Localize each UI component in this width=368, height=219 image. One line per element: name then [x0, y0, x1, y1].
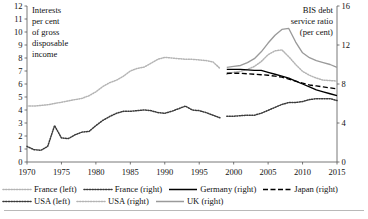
legend-item-france-right[interactable]: France (right) — [83, 185, 162, 194]
x-tick-label: 1985 — [122, 167, 139, 177]
legend-label: Japan (right) — [294, 185, 338, 194]
left-axis-caption-line: Interests — [32, 5, 62, 15]
right-tick-label: 12 — [342, 40, 351, 50]
left-tick-label: 1 — [18, 144, 22, 154]
left-tick-label: 12 — [14, 1, 23, 11]
left-tick-label: 3 — [18, 118, 22, 128]
x-tick-label: 1990 — [156, 167, 173, 177]
legend-key-icon — [262, 186, 292, 193]
left-axis-caption-line: disposable — [32, 38, 68, 48]
legend-key-icon — [83, 186, 113, 193]
x-tick-label: 2000 — [225, 167, 242, 177]
legend-key-icon — [168, 186, 198, 193]
right-axis-caption-line: (per cent) — [300, 27, 333, 37]
legend-key-icon — [2, 198, 32, 205]
legend-item-japan-right[interactable]: Japan (right) — [262, 185, 338, 194]
left-tick-label: 0 — [18, 157, 22, 167]
right-axis-caption-line: service ratio — [291, 16, 333, 26]
plot-area: 0123456789101112048121619701975198019851… — [0, 0, 368, 182]
legend-label: USA (left) — [34, 197, 70, 206]
x-tick-label: 1970 — [19, 167, 36, 177]
footer-divider — [4, 210, 364, 211]
x-tick-label: 1980 — [87, 167, 104, 177]
right-tick-label: 8 — [342, 79, 346, 89]
legend-key-icon — [155, 198, 185, 205]
legend-label: Germany (right) — [200, 185, 256, 194]
legend-label: USA (right) — [108, 197, 149, 206]
legend-label: UK (right) — [187, 197, 224, 206]
left-axis-caption-line: of gross — [32, 27, 60, 37]
left-tick-label: 6 — [18, 79, 22, 89]
footnote-text — [40, 212, 330, 219]
legend-key — [168, 186, 198, 193]
x-tick-label: 1975 — [53, 167, 70, 177]
left-tick-label: 11 — [14, 14, 22, 24]
legend-item-uk-right[interactable]: UK (right) — [155, 197, 224, 206]
x-tick-label: 2010 — [294, 167, 311, 177]
legend-item-france-left[interactable]: France (left) — [2, 185, 77, 194]
legend-item-usa-left[interactable]: USA (left) — [2, 197, 70, 206]
line-chart-svg: 0123456789101112048121619701975198019851… — [0, 0, 368, 182]
x-tick-label: 2005 — [260, 167, 277, 177]
series-line-france-left — [27, 57, 220, 106]
series-line-usa-left — [27, 106, 220, 150]
left-tick-label: 4 — [18, 105, 23, 115]
legend-key — [76, 198, 106, 205]
right-axis-caption-line: BIS debt — [303, 5, 334, 15]
x-tick-label: 2015 — [329, 167, 346, 177]
left-axis-caption-line: per cent — [32, 16, 60, 26]
legend-label: France (right) — [115, 185, 162, 194]
series-line-france-right — [227, 99, 337, 117]
chart-legend: France (left)France (right)Germany (righ… — [0, 183, 368, 209]
chart-figure: 0123456789101112048121619701975198019851… — [0, 0, 368, 219]
left-tick-label: 7 — [18, 66, 22, 76]
left-axis-caption-line: income — [32, 49, 57, 59]
right-tick-label: 16 — [342, 1, 351, 11]
right-tick-label: 4 — [342, 118, 347, 128]
legend-key — [262, 186, 292, 193]
left-tick-label: 10 — [14, 27, 23, 37]
legend-item-usa-right[interactable]: USA (right) — [76, 197, 149, 206]
legend-key — [155, 198, 185, 205]
legend-key-icon — [76, 198, 106, 205]
left-tick-label: 2 — [18, 131, 22, 141]
legend-row: USA (left)USA (right)UK (right) — [0, 195, 368, 207]
legend-item-germany-right[interactable]: Germany (right) — [168, 185, 256, 194]
legend-row: France (left)France (right)Germany (righ… — [0, 183, 368, 195]
left-tick-label: 5 — [18, 92, 22, 102]
legend-label: France (left) — [34, 185, 77, 194]
legend-key — [2, 186, 32, 193]
right-tick-label: 0 — [342, 157, 346, 167]
legend-key — [2, 198, 32, 205]
left-tick-label: 9 — [18, 40, 22, 50]
legend-key — [83, 186, 113, 193]
left-tick-label: 8 — [18, 53, 22, 63]
legend-key-icon — [2, 186, 32, 193]
x-tick-label: 1995 — [191, 167, 208, 177]
